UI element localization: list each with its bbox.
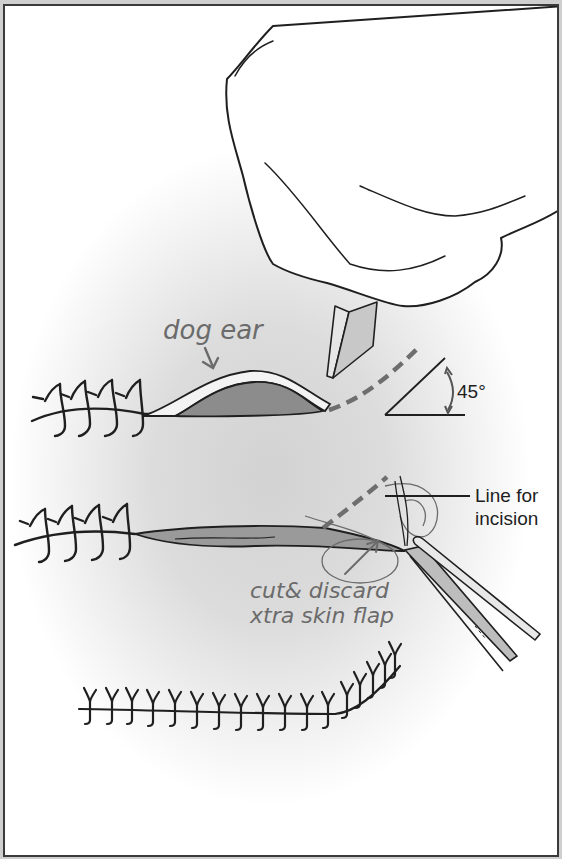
hand-illustration xyxy=(226,6,557,306)
panel-2-suture-line xyxy=(15,504,135,562)
suture-stitch xyxy=(84,688,96,724)
suture-stitch xyxy=(147,690,159,726)
suture-stitch xyxy=(389,642,401,678)
dog-ear-bulge xyxy=(143,371,330,416)
forceps xyxy=(405,537,540,671)
suture-stitch xyxy=(301,694,313,730)
angle-label: 45° xyxy=(457,381,486,402)
suture-stitch xyxy=(106,688,118,724)
dog-ear-label: dog ear xyxy=(163,315,265,345)
figure-frame: 45° dog ear Line for xyxy=(3,4,559,857)
suture-stitch xyxy=(126,688,138,724)
suture-stitch xyxy=(279,694,291,730)
suture-stitch xyxy=(191,692,203,728)
scalpel-blade xyxy=(327,302,377,378)
suture-stitch xyxy=(367,662,379,698)
incision-dashed-line-2 xyxy=(323,477,387,528)
suture-stitch xyxy=(322,692,334,728)
dog-ear-arrow xyxy=(203,348,218,368)
suture-stitch xyxy=(379,652,391,688)
line-for-label: Line for xyxy=(475,485,539,506)
panel-3-closed-suture-line xyxy=(79,642,401,730)
illustration: 45° dog ear Line for xyxy=(5,6,557,855)
suture-stitch xyxy=(169,690,181,726)
skin-flap-label: xtra skin flap xyxy=(249,603,394,628)
cut-discard-label: cut& discard xyxy=(250,578,390,603)
incision-label: incision xyxy=(475,508,538,529)
